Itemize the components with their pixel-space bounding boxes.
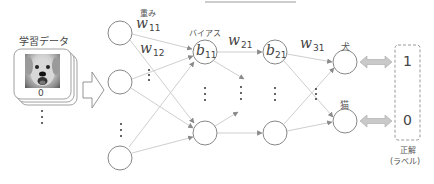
weight-w31: w31: [300, 35, 324, 53]
edges-hidden1-to-hidden2: [214, 52, 262, 133]
ground-truth-dog: 1: [395, 53, 420, 69]
input-node: [108, 146, 132, 170]
bias-b11: b11: [196, 42, 216, 60]
bias-index: 11: [205, 50, 216, 60]
weight-symbol: w: [300, 35, 312, 51]
output-node-dog: [333, 50, 357, 74]
weight-index: 31: [313, 43, 324, 53]
weight-index: 21: [241, 40, 252, 50]
edges-hidden2-to-output: [284, 54, 334, 131]
weight-symbol: w: [136, 15, 148, 31]
training-image-label: 0: [38, 88, 44, 98]
double-arrow-icon: [360, 115, 392, 127]
weight-w21: w21: [228, 32, 252, 50]
ground-truth-caption-sub: (ラベル): [390, 155, 420, 166]
hidden2-ellipsis: [274, 87, 276, 101]
bias-symbol: b: [196, 42, 205, 58]
output-node-cat: [333, 109, 357, 133]
dog-photo: [25, 54, 60, 88]
weight-w12: w12: [140, 40, 164, 58]
comparison-arrows: [360, 56, 392, 127]
bias-symbol: b: [266, 42, 275, 58]
weight-index: 11: [149, 23, 160, 33]
hidden1-ellipsis: [204, 87, 206, 101]
ground-truth-cat: 0: [395, 112, 420, 128]
input-arrow-icon: [83, 72, 104, 108]
weight-w11: w11: [136, 15, 160, 33]
between-layers-ellipsis: [240, 86, 242, 100]
bias-b21: b21: [266, 42, 286, 60]
output-label-dog: 犬: [341, 40, 350, 53]
output-edges-ellipsis: [315, 88, 317, 100]
input-node: [108, 21, 132, 45]
ground-truth-caption: 正解: [400, 144, 416, 155]
bias-caption: バイアス: [189, 27, 221, 38]
hidden-node: [263, 121, 287, 145]
hidden-node: [193, 121, 217, 145]
input-node: [108, 70, 132, 94]
output-label-cat: 猫: [340, 98, 349, 111]
input-ellipsis: [120, 123, 122, 137]
bias-index: 21: [275, 50, 286, 60]
dog-face-icon: [25, 54, 60, 88]
training-data-title: 学習データ: [19, 33, 69, 48]
input-layer: [108, 21, 132, 170]
more-data-ellipsis: [41, 110, 43, 124]
weight-index: 12: [153, 48, 164, 58]
output-layer: [333, 50, 357, 133]
weight-symbol: w: [140, 40, 152, 56]
double-arrow-icon: [360, 56, 392, 68]
input-ellipsis-upper: [148, 69, 150, 81]
weight-symbol: w: [228, 32, 240, 48]
